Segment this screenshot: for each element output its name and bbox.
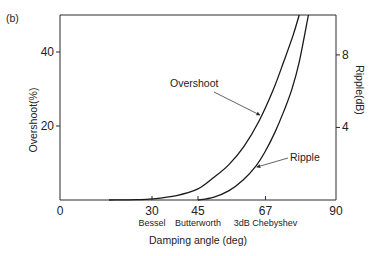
y-ticks: 2040 (41, 45, 60, 133)
x-axis-title: Damping angle (deg) (149, 234, 247, 246)
y-axis-title: Overshoot(%) (27, 88, 39, 153)
x-tick-label: 67 (259, 204, 273, 218)
y2-tick-label: 4 (342, 120, 349, 134)
x-tick-label: 0 (57, 204, 64, 218)
series-group (109, 15, 308, 200)
y2-ticks: 48 (336, 48, 349, 135)
y2-tick-label: 8 (342, 48, 349, 62)
x-ticks: 030Bessel45Butterworth673dB Chebyshev90 (57, 196, 343, 228)
x-tick-sublabel: Butterworth (175, 218, 221, 228)
ripple-annotation-label: Ripple (290, 151, 320, 163)
x-tick-label: 30 (145, 204, 159, 218)
plot-frame (60, 15, 336, 200)
overshoot-leader-arrow (214, 92, 260, 115)
panel-label: (b) (6, 12, 19, 24)
ripple-leader-arrow (257, 158, 288, 167)
ripple-curve (198, 15, 308, 200)
x-tick-label: 45 (191, 204, 205, 218)
x-tick-sublabel: Bessel (138, 218, 165, 228)
y2-axis-title: Ripple(dB) (354, 65, 366, 115)
overshoot-annotation-label: Overshoot (170, 77, 219, 89)
y-tick-label: 40 (41, 45, 55, 59)
x-tick-label: 90 (329, 204, 343, 218)
overshoot-curve (109, 15, 299, 200)
annotations: OvershootRipple (170, 77, 320, 167)
x-tick-sublabel: 3dB Chebyshev (234, 218, 298, 228)
y-tick-label: 20 (41, 119, 55, 133)
chart: (b) 030Bessel45Butterworth673dB Chebyshe… (0, 0, 379, 256)
